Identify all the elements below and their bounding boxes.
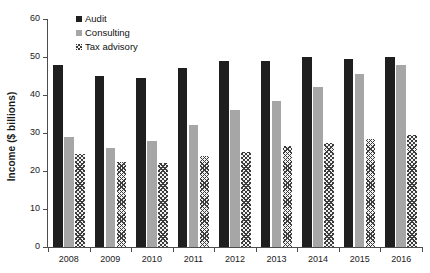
legend-label: Consulting [85,27,130,38]
y-axis-tick-label: 10 [4,203,40,213]
x-axis-tick-label: 2009 [90,254,130,264]
y-axis-tick-label: 50 [4,51,40,61]
x-axis-tick-label: 2014 [298,254,338,264]
x-axis-tick [422,248,423,252]
bar-audit-2012 [219,61,229,247]
bar-tax-2016 [407,135,417,247]
legend-swatch-consulting-icon [76,30,82,36]
legend-swatch-tax-icon [76,44,82,50]
x-axis-tick [256,248,257,252]
x-axis-tick-label: 2015 [340,254,380,264]
bar-audit-2009 [95,76,105,247]
x-axis-tick-label: 2011 [173,254,213,264]
chart-legend: AuditConsultingTax advisory [76,13,138,52]
legend-item-tax: Tax advisory [76,41,138,52]
bar-audit-2014 [302,57,312,247]
bar-audit-2015 [344,59,354,247]
bar-consulting-2009 [106,148,116,247]
x-axis-tick [380,248,381,252]
bar-audit-2008 [53,65,63,247]
x-axis-tick-label: 2012 [215,254,255,264]
x-axis-tick [339,248,340,252]
y-axis-tick-label: 20 [4,165,40,175]
bar-tax-2014 [324,143,334,248]
bar-tax-2011 [200,156,210,247]
bar-tax-2015 [366,139,376,247]
bar-consulting-2010 [147,141,157,247]
x-axis-tick [297,248,298,252]
y-axis-tick-label: 0 [4,241,40,251]
bar-consulting-2014 [313,87,323,247]
y-axis-tick-label: 40 [4,89,40,99]
bar-audit-2013 [261,61,271,247]
x-axis-tick [214,248,215,252]
bar-tax-2010 [158,163,168,247]
x-axis-tick [131,248,132,252]
x-axis-tick-label: 2016 [381,254,421,264]
bar-consulting-2013 [272,101,282,247]
legend-item-audit: Audit [76,13,138,24]
bar-audit-2010 [136,78,146,247]
legend-item-consulting: Consulting [76,27,138,38]
bar-consulting-2008 [64,137,74,247]
x-axis-tick [90,248,91,252]
bar-tax-2013 [283,146,293,247]
legend-label: Tax advisory [85,41,138,52]
x-axis-tick [173,248,174,252]
bar-tax-2012 [241,152,251,247]
plot-area [48,19,422,247]
bar-consulting-2016 [396,65,406,247]
x-axis-tick [48,248,49,252]
bar-tax-2008 [75,154,85,247]
bar-consulting-2011 [189,125,199,247]
bar-audit-2016 [385,57,395,247]
y-axis-tick-label: 60 [4,13,40,23]
bar-consulting-2015 [355,74,365,247]
bar-audit-2011 [178,68,188,247]
legend-swatch-audit-icon [76,16,82,22]
bar-chart: Income ($ billions) 0102030405060 200820… [0,0,430,273]
legend-label: Audit [85,13,107,24]
bar-consulting-2012 [230,110,240,247]
x-axis-tick-label: 2008 [49,254,89,264]
x-axis-line [47,247,423,248]
bar-tax-2009 [117,162,127,248]
x-axis-tick-label: 2013 [257,254,297,264]
x-axis-tick-label: 2010 [132,254,172,264]
y-axis-tick-label: 30 [4,127,40,137]
